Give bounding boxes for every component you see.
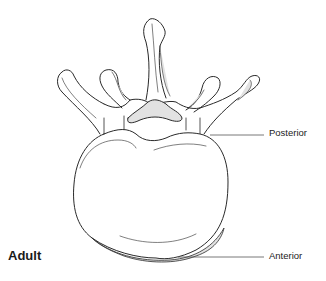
posterior-label: Posterior [269,127,307,138]
anterior-label: Anterior [269,250,302,261]
vertebral-body [74,130,228,259]
vertebral-foramen [128,100,182,123]
age-group-label: Adult [8,248,41,263]
left-articular-process [100,70,130,108]
vertebra-illustration [0,0,326,281]
vertebra-diagram: Posterior Anterior Adult [0,0,326,281]
left-transverse-process [58,70,105,134]
